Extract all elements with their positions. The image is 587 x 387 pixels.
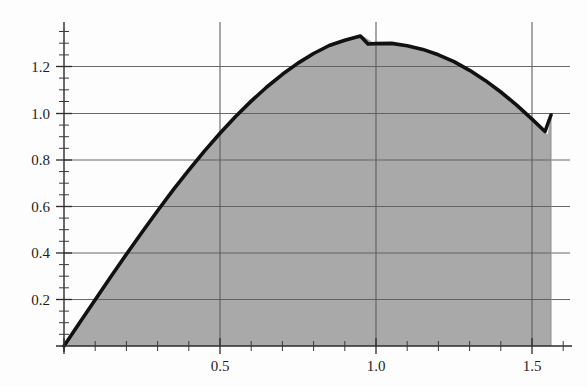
x-tick-label-1.0: 1.0 xyxy=(367,358,386,374)
chart-figure: 1.2 1.0 0.8 0.6 0.4 0.2 0.5 1.0 1.5 xyxy=(0,0,587,387)
y-tick-label-0.8: 0.8 xyxy=(31,152,50,168)
y-tick-label-0.4: 0.4 xyxy=(31,245,50,261)
x-tick-label-1.5: 1.5 xyxy=(523,358,542,374)
y-tick-label-0.2: 0.2 xyxy=(31,292,50,308)
plot-canvas: 1.2 1.0 0.8 0.6 0.4 0.2 0.5 1.0 1.5 xyxy=(0,0,587,387)
y-tick-label-1.0: 1.0 xyxy=(31,106,50,122)
y-tick-label-0.6: 0.6 xyxy=(31,199,50,215)
x-tick-label-0.5: 0.5 xyxy=(211,358,230,374)
y-tick-label-1.2: 1.2 xyxy=(31,59,50,75)
